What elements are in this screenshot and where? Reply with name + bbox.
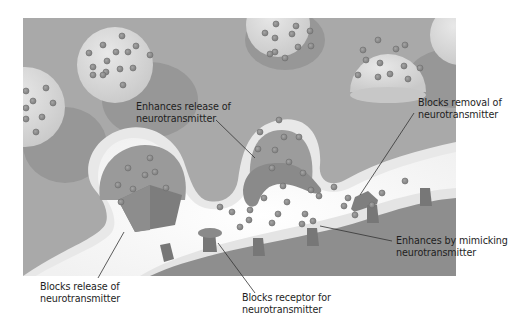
label-enhances-release: Enhances release of neurotransmitter: [136, 101, 231, 125]
label-blocks-receptor: Blocks receptor for neurotransmitter: [242, 292, 331, 316]
label-blocks-release: Blocks release of neurotransmitter: [40, 281, 120, 305]
label-enhances-mimicking: Enhances by mimicking neurotransmitter: [396, 235, 508, 259]
label-line: neurotransmitter: [396, 247, 508, 259]
vesicle: [77, 27, 153, 103]
label-line: Enhances by mimicking: [396, 235, 508, 247]
label-line: neurotransmitter: [242, 304, 331, 316]
label-line: Blocks receptor for: [242, 292, 331, 304]
label-line: Blocks release of: [40, 281, 120, 293]
synapse-diagram: [0, 0, 527, 328]
label-line: neurotransmitter: [136, 113, 231, 125]
vesicle: [430, 5, 490, 65]
receptor-blocker-cap: [198, 228, 222, 238]
label-line: neurotransmitter: [40, 293, 120, 305]
label-line: Blocks removal of: [418, 97, 502, 109]
label-line: neurotransmitter: [418, 109, 502, 121]
label-blocks-removal: Blocks removal of neurotransmitter: [418, 97, 502, 121]
label-line: Enhances release of: [136, 101, 231, 113]
